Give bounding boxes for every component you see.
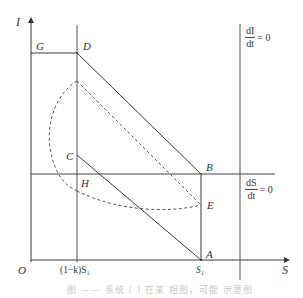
point-d-dot [76, 52, 78, 54]
dt-denominator: dt [246, 38, 254, 49]
point-a-dot [200, 259, 202, 261]
dashed-orbit-bottom [77, 191, 201, 210]
tick-label-1-k-s1: (1−k)S₁ [60, 266, 90, 276]
point-label-b: B [206, 162, 213, 173]
point-label-d: D [83, 41, 91, 52]
origin-label: O [18, 265, 26, 276]
equals-zero: = 0 [260, 185, 273, 195]
ds-numerator: dS [245, 178, 258, 190]
segment-c-a [77, 155, 201, 260]
dt-denominator: dt [247, 190, 255, 201]
nullcline-label-di-dt: dI dt = 0 [245, 26, 270, 49]
di-numerator: dI [245, 26, 255, 38]
x-axis-label: S [282, 264, 288, 276]
point-label-g: G [36, 41, 44, 52]
point-label-a: A [206, 249, 213, 260]
point-label-h: H [81, 178, 89, 189]
y-axis-label: I [16, 16, 20, 28]
point-label-c: C [66, 151, 73, 162]
dashed-orbit-right [77, 81, 201, 205]
point-label-e: E [207, 200, 214, 211]
figure-caption: 图 —— 系统 ( ) 在某 相图，可能 示意图 [40, 286, 280, 295]
tick-label-s1: S₁ [196, 266, 204, 276]
nullcline-label-ds-dt: dS dt = 0 [245, 178, 273, 201]
segment-d-b [77, 53, 201, 174]
equals-zero: = 0 [257, 33, 270, 43]
